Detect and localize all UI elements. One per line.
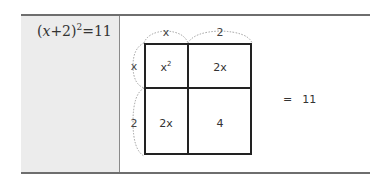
- cell-top-right: 2x: [213, 61, 227, 74]
- result-value: 11: [302, 93, 316, 106]
- left-dim-2: 2: [131, 117, 138, 130]
- top-dim-x: x: [163, 26, 170, 39]
- result: =11: [283, 93, 326, 106]
- cell-x-squared: x2: [161, 60, 172, 74]
- area-model-horizontal-divider: [144, 87, 252, 89]
- area-model-vertical-divider: [187, 43, 189, 155]
- left-dim-x: x: [131, 60, 138, 73]
- cell-bottom-left: 2x: [159, 117, 173, 130]
- top-dim-2: 2: [217, 26, 224, 39]
- cell-x-squared-exp: 2: [167, 60, 171, 68]
- table-bottom-rule: [21, 172, 370, 174]
- result-equals: =: [283, 93, 292, 106]
- cell-bottom-right: 4: [217, 117, 224, 130]
